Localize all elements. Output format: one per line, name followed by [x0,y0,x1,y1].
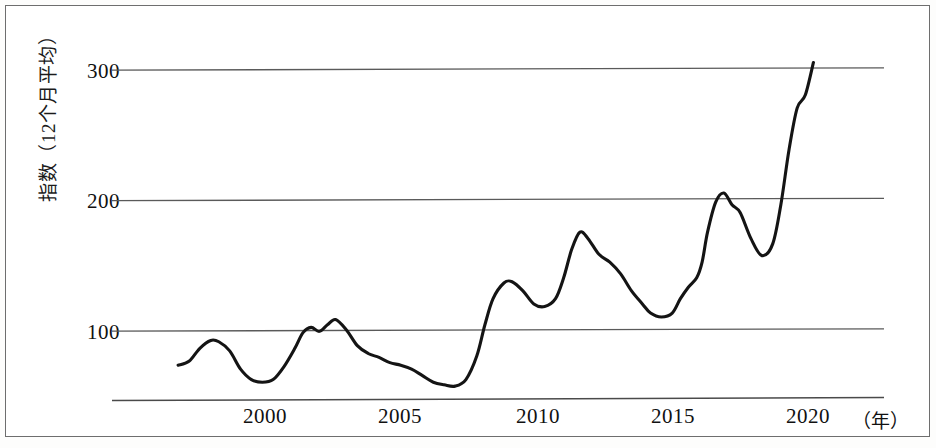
data-series-line [178,62,813,386]
gridline-200 [112,198,884,200]
figure-container: 指数（12个月平均） 100 200 300 2000 2005 2010 20… [0,0,936,448]
gridline-100 [112,329,884,331]
plot-area [0,0,936,448]
axis-lines-group [112,398,884,401]
gridline-300 [112,68,884,70]
x-axis-line [112,398,884,401]
